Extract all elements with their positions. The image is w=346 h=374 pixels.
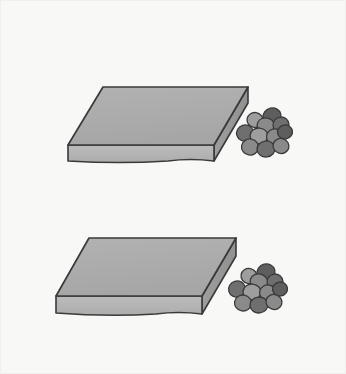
scene-vector-layer [0, 0, 346, 374]
upper-slab-front-face [68, 145, 214, 163]
illustration-canvas: Upper slab Upper pebble pile Lower slab … [0, 0, 346, 374]
lower-slab-front-face [56, 296, 202, 315]
paper-background [0, 0, 346, 374]
